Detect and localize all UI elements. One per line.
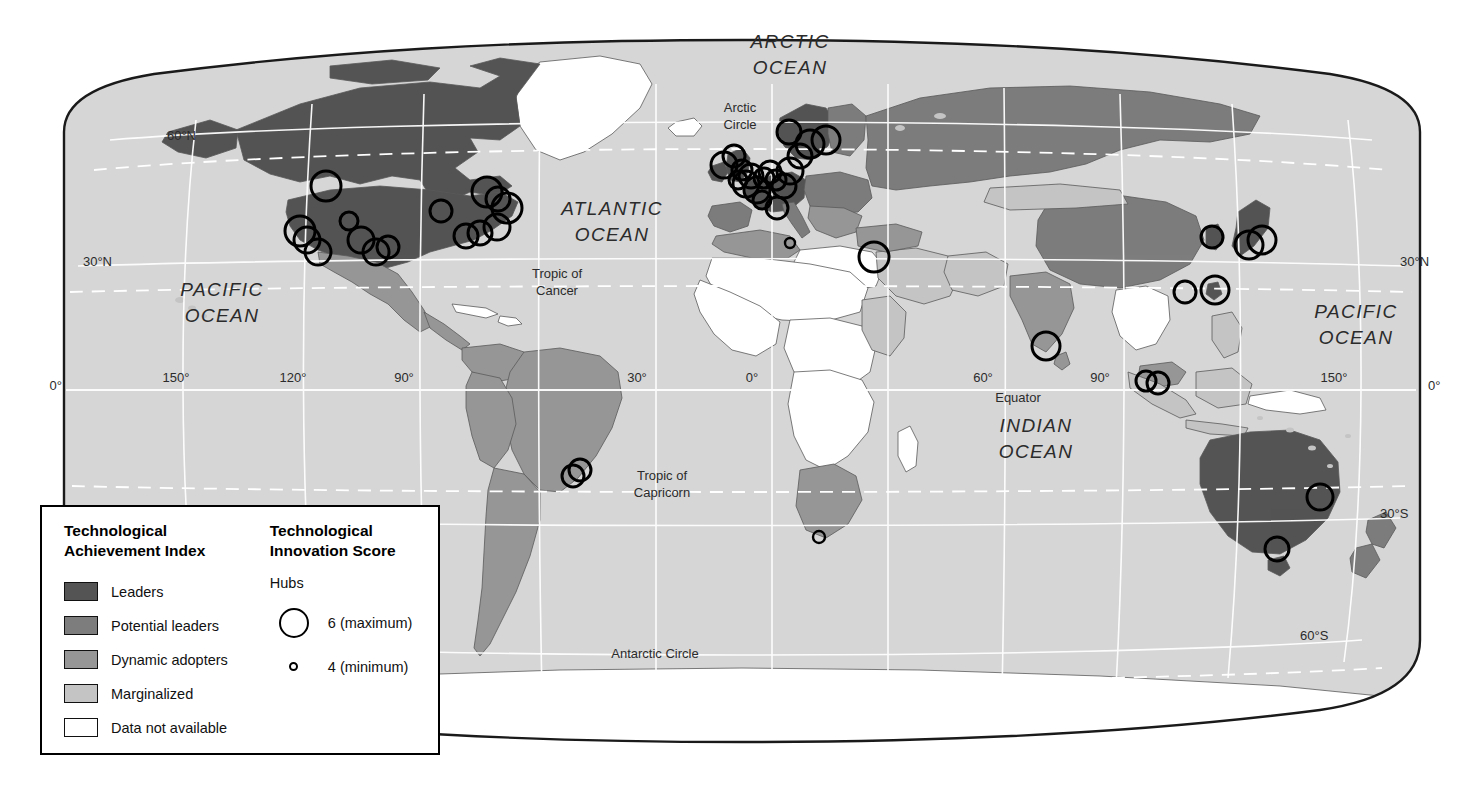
latitude-label-3: 30°N (1400, 254, 1429, 269)
longitude-label-1: 120° (280, 370, 307, 385)
legend-title-innovation: Technological Innovation Score (270, 521, 438, 561)
legend-hub-symbol-cell (270, 662, 318, 671)
legend-index-items: LeadersPotential leadersDynamic adopters… (64, 575, 270, 745)
legend-index-row: Leaders (64, 575, 270, 609)
latitude-label-0: 60°N (167, 128, 196, 143)
legend-hub-symbol-cell (270, 608, 318, 638)
legend-hub-circle-min (289, 662, 298, 671)
legend-column-index: Technological Achievement Index LeadersP… (64, 521, 270, 745)
legend-swatch-marginalized (64, 684, 98, 703)
longitude-label-5: 60° (973, 370, 993, 385)
legend-swatch-dynamic-adopters (64, 650, 98, 669)
legend-hub-circle-max (279, 608, 309, 638)
legend-swatch-leaders (64, 582, 98, 601)
longitude-label-6: 90° (1090, 370, 1110, 385)
longitude-label-2: 90° (394, 370, 414, 385)
longitude-label-3: 30° (627, 370, 647, 385)
legend-hub-label: 4 (minimum) (328, 659, 409, 675)
legend-label-text: Dynamic adopters (111, 652, 228, 668)
legend-label-text: Potential leaders (111, 618, 219, 634)
legend-hub-row: 6 (maximum) (270, 601, 438, 645)
latitude-label-6: 60°S (1300, 628, 1329, 643)
latitude-label-5: 30°S (1380, 506, 1409, 521)
legend-column-innovation: Technological Innovation Score Hubs 6 (m… (270, 521, 438, 745)
legend-hubs-label: Hubs (270, 575, 438, 591)
longitude-label-7: 150° (1321, 370, 1348, 385)
legend-index-row: Dynamic adopters (64, 643, 270, 677)
feature-label-antarctic-circle: Antarctic Circle (611, 646, 698, 661)
legend-index-row: Potential leaders (64, 609, 270, 643)
legend-swatch-potential-leaders (64, 616, 98, 635)
legend-hub-row: 4 (minimum) (270, 645, 438, 689)
legend-index-row: Data not available (64, 711, 270, 745)
legend-hub-items: 6 (maximum)4 (minimum) (270, 601, 438, 689)
map-legend: Technological Achievement Index LeadersP… (40, 505, 440, 755)
legend-hub-label: 6 (maximum) (328, 615, 413, 631)
legend-swatch-data-not-available (64, 718, 98, 737)
longitude-label-4: 0° (746, 370, 758, 385)
legend-label-text: Leaders (111, 584, 163, 600)
longitude-label-0: 150° (163, 370, 190, 385)
latitude-label-1: 30°N (83, 254, 112, 269)
legend-label-text: Marginalized (111, 686, 193, 702)
latitude-label-2: 0° (50, 378, 62, 393)
latitude-label-4: 0° (1428, 378, 1440, 393)
legend-title-index: Technological Achievement Index (64, 521, 270, 561)
legend-index-row: Marginalized (64, 677, 270, 711)
legend-label-text: Data not available (111, 720, 227, 736)
feature-label-equator: Equator (995, 390, 1041, 405)
